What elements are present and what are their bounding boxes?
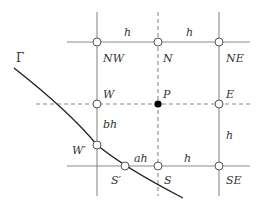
spacing-label-h-bottom: h [184, 152, 191, 165]
gamma-label: Γ [16, 51, 24, 65]
node-label-wp: W′ [72, 144, 86, 157]
node-label-n: N [162, 52, 173, 65]
node-s-circle [154, 162, 162, 170]
spacing-label-h-top-right: h [186, 26, 193, 39]
node-label-sp: S′ [111, 174, 122, 187]
node-nw-circle [93, 38, 101, 46]
node-n-circle [154, 38, 162, 46]
node-sp-circle [121, 162, 129, 170]
node-label-e: E [225, 88, 234, 101]
node-p-filled-dot [154, 100, 161, 107]
node-label-w: W [103, 88, 116, 101]
node-label-nw: NW [102, 52, 126, 65]
node-e-circle [215, 100, 223, 108]
stencil-svg: NWNNEWPEW′S′SSEhhbhhahh Γ [0, 0, 263, 208]
node-se-circle [215, 162, 223, 170]
node-w-circle [93, 100, 101, 108]
node-ne-circle [215, 38, 223, 46]
spacing-label-h-top-left: h [124, 26, 131, 39]
node-label-ne: NE [225, 52, 244, 65]
node-label-p: P [162, 88, 171, 101]
spacing-label-h-right: h [226, 129, 233, 142]
spacing-label-ah: ah [134, 152, 148, 165]
node-label-s: S [164, 174, 172, 187]
stencil-diagram: NWNNEWPEW′S′SSEhhbhhahh Γ [0, 0, 263, 208]
node-wp-circle [93, 141, 101, 149]
spacing-label-bh: bh [103, 118, 117, 131]
node-label-se: SE [226, 174, 242, 187]
